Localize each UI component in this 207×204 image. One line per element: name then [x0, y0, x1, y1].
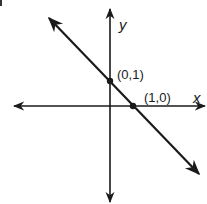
point-0-1 — [107, 78, 113, 84]
point-0-1-label: (0,1) — [117, 67, 144, 82]
line-y-equals-negative-x-plus-1 — [49, 18, 199, 174]
point-1-0-label: (1,0) — [144, 90, 171, 105]
coordinate-plane: y x (0,1) (1,0) — [0, 0, 207, 204]
point-1-0 — [130, 103, 136, 109]
y-axis-label: y — [118, 16, 128, 33]
x-axis-label: x — [192, 89, 201, 106]
